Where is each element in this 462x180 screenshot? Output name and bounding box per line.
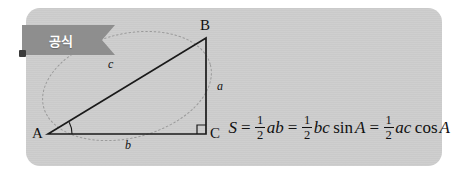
formula-symbol-S: S	[228, 118, 238, 138]
formula-fraction-half-1: 1 2	[255, 114, 265, 142]
formula-angle-cos-A: A	[439, 118, 450, 138]
formula-sin: sin	[330, 118, 354, 138]
vertex-label-B: B	[200, 17, 210, 34]
formula-term-ac: ac	[395, 118, 412, 138]
formula-equals-1: =	[238, 118, 255, 138]
right-angle-marker	[197, 125, 206, 134]
side-label-b: b	[125, 138, 131, 153]
side-label-c: c	[108, 57, 113, 72]
fraction-denominator: 2	[384, 129, 394, 142]
formula-equals-2: =	[284, 118, 301, 138]
formula-angle-sin-A: A	[355, 118, 366, 138]
formula-term-ab: ab	[266, 118, 284, 138]
formula-cos: cos	[412, 118, 439, 138]
formula-banner-label: 공식	[22, 25, 100, 55]
fraction-denominator: 2	[255, 129, 265, 142]
fraction-numerator: 1	[384, 114, 394, 127]
formula-fraction-half-2: 1 2	[302, 114, 312, 142]
vertex-label-C: C	[210, 125, 220, 142]
fraction-numerator: 1	[255, 114, 265, 127]
side-label-a: a	[217, 79, 223, 94]
formula-term-bc: bc	[313, 118, 330, 138]
angle-arc-a	[69, 122, 72, 134]
fraction-denominator: 2	[302, 129, 312, 142]
formula-fraction-half-3: 1 2	[384, 114, 394, 142]
page-root: B A C a b c 공식 S = 1 2 ab = 1 2 bc sin A…	[0, 0, 462, 180]
area-formula: S = 1 2 ab = 1 2 bc sin A = 1 2 ac cos A	[228, 112, 450, 144]
formula-equals-3: =	[366, 118, 383, 138]
banner-corner-tab	[19, 50, 26, 57]
vertex-label-A: A	[32, 125, 43, 142]
fraction-numerator: 1	[302, 114, 312, 127]
